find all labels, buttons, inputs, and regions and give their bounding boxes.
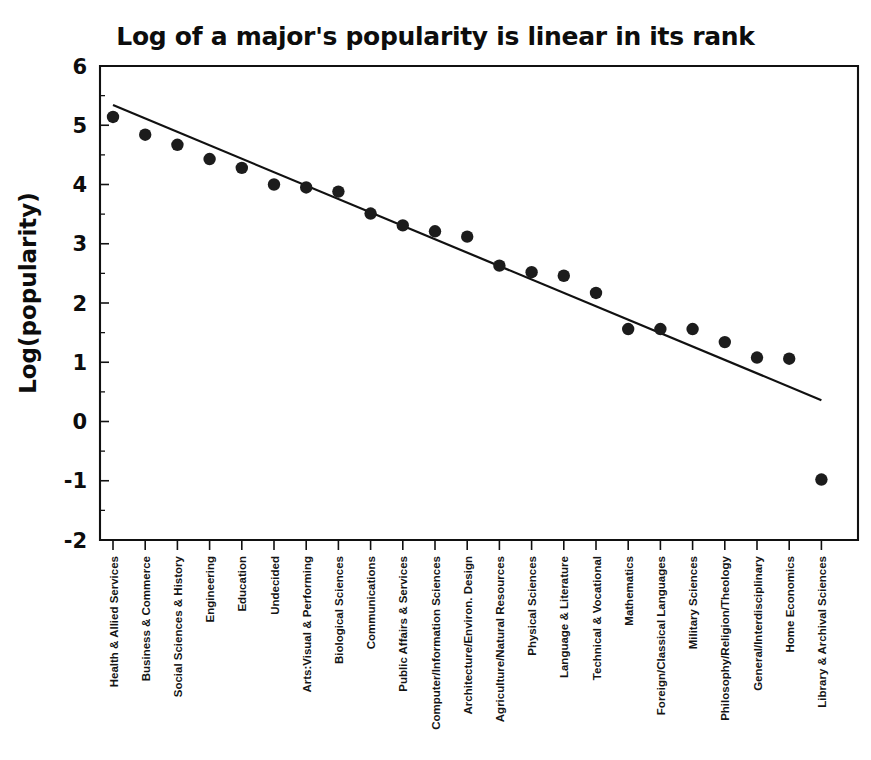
- y-tick-label: -2: [64, 529, 87, 553]
- y-tick-label: 0: [72, 410, 87, 434]
- y-tick-label: 3: [72, 232, 87, 256]
- x-tick-label: Business & Commerce: [140, 556, 152, 681]
- data-point: [493, 259, 505, 271]
- data-point: [107, 111, 119, 123]
- x-tick-label: Social Sciences & History: [172, 555, 184, 697]
- data-point: [783, 352, 795, 364]
- data-point: [332, 185, 344, 197]
- data-point: [654, 323, 666, 335]
- x-axis-labels: Health & Allied ServicesBusiness & Comme…: [108, 555, 828, 729]
- x-tick-label: Home Economics: [784, 556, 796, 653]
- data-points: [107, 111, 828, 486]
- x-tick-label: Engineering: [204, 556, 216, 622]
- data-point: [429, 225, 441, 237]
- x-tick-label: Library & Archival Sciences: [816, 556, 828, 708]
- x-tick-label: Health & Allied Services: [108, 556, 120, 687]
- data-point: [236, 162, 248, 174]
- data-point: [719, 336, 731, 348]
- x-tick-label: Undecided: [269, 556, 281, 615]
- x-tick-label: Agriculture/Natural Resources: [494, 556, 506, 722]
- data-point: [622, 323, 634, 335]
- x-tick-label: Architecture/Environ. Design: [462, 556, 474, 714]
- x-axis-ticks: [113, 540, 821, 550]
- scatter-plot: -2-10123456 Health & Allied ServicesBusi…: [0, 0, 871, 760]
- data-point: [203, 153, 215, 165]
- data-point: [751, 351, 763, 363]
- data-point: [815, 473, 827, 485]
- x-tick-label: Biological Sciences: [333, 556, 345, 664]
- x-tick-label: Communications: [365, 556, 377, 649]
- x-tick-label: General/Interdisciplinary: [752, 555, 764, 690]
- x-tick-label: Philosophy/Religion/Theology: [719, 555, 731, 720]
- data-point: [558, 270, 570, 282]
- x-tick-label: Physical Sciences: [526, 556, 538, 656]
- x-tick-label: Education: [236, 556, 248, 612]
- x-tick-label: Public Affairs & Services: [397, 556, 409, 692]
- regression-line: [113, 105, 821, 400]
- y-tick-label: 6: [72, 55, 87, 79]
- x-tick-label: Military Sciences: [687, 556, 699, 649]
- data-point: [300, 181, 312, 193]
- data-point: [171, 139, 183, 151]
- x-tick-label: Technical & Vocational: [591, 556, 603, 680]
- data-point: [590, 287, 602, 299]
- data-point: [525, 266, 537, 278]
- data-point: [364, 207, 376, 219]
- data-point: [397, 219, 409, 231]
- x-tick-label: Arts:Visual & Performing: [301, 556, 313, 693]
- chart-figure: Log of a major's popularity is linear in…: [0, 0, 871, 760]
- data-point: [461, 230, 473, 242]
- x-tick-label: Foreign/Classical Languages: [655, 556, 667, 715]
- x-tick-label: Computer/Information Sciences: [430, 556, 442, 730]
- y-tick-label: 2: [72, 292, 87, 316]
- data-point: [139, 129, 151, 141]
- x-tick-label: Mathematics: [623, 556, 635, 626]
- y-tick-label: 4: [72, 173, 87, 197]
- data-point: [686, 323, 698, 335]
- y-tick-label: 1: [72, 351, 87, 375]
- y-tick-label: 5: [72, 114, 87, 138]
- y-axis-ticks: -2-10123456: [64, 55, 109, 553]
- x-tick-label: Language & Literature: [558, 556, 570, 678]
- plot-frame: [100, 66, 858, 540]
- y-tick-label: -1: [64, 469, 87, 493]
- data-point: [268, 178, 280, 190]
